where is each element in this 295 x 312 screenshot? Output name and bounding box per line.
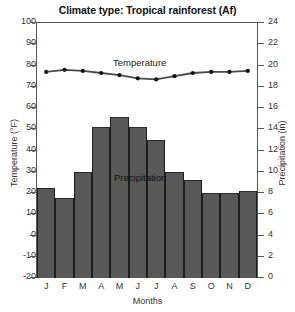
y-axis-right-tick-mark <box>258 128 264 129</box>
y-axis-right-tick-label: 4 <box>268 230 294 239</box>
y-axis-right-tick-mark <box>258 277 264 278</box>
x-axis-month-label: N <box>221 281 239 291</box>
precipitation-bar <box>202 193 220 278</box>
x-axis-month-label: S <box>184 281 202 291</box>
x-axis-month-label: J <box>129 281 147 291</box>
y-axis-left-tick-label: 80 <box>10 60 36 69</box>
y-axis-right-tick-label: 6 <box>268 208 294 217</box>
y-axis-right-tick-label: 24 <box>268 17 294 26</box>
precipitation-bar <box>147 140 165 278</box>
y-axis-right-tick-label: 12 <box>268 145 294 154</box>
y-axis-right-tick-label: 2 <box>268 251 294 260</box>
precipitation-bar <box>92 127 110 278</box>
x-axis-month-label: J <box>147 281 165 291</box>
y-axis-right-tick-label: 0 <box>268 272 294 281</box>
y-axis-left-ticks: 1009080706050403020100-10-20 <box>0 0 36 312</box>
precipitation-bar <box>129 127 147 278</box>
x-axis-month-label: F <box>56 281 74 291</box>
x-axis-month-label: D <box>239 281 257 291</box>
x-axis-month-label: J <box>37 281 55 291</box>
y-axis-right-tick-label: 22 <box>268 38 294 47</box>
precipitation-bar <box>165 172 183 278</box>
y-axis-right-tick-label: 8 <box>268 187 294 196</box>
y-axis-left-tick-label: 0 <box>10 230 36 239</box>
x-axis-month-label: A <box>92 281 110 291</box>
x-axis-title: Months <box>0 296 295 306</box>
y-axis-left-tick-label: 40 <box>10 145 36 154</box>
y-axis-right-tick-label: 10 <box>268 166 294 175</box>
y-axis-right-tick-mark <box>258 65 264 66</box>
x-axis-month-label: O <box>202 281 220 291</box>
y-axis-right-tick-mark <box>258 192 264 193</box>
y-axis-right-tick-mark <box>258 86 264 87</box>
precipitation-bar <box>239 191 257 278</box>
y-axis-right-tick-mark <box>258 107 264 108</box>
y-axis-right-tick-label: 16 <box>268 102 294 111</box>
climograph-chart: Climate type: Tropical rainforest (Af) T… <box>0 0 295 312</box>
precipitation-bar <box>55 198 73 278</box>
x-axis-month-label: M <box>111 281 129 291</box>
x-axis-month-label: A <box>166 281 184 291</box>
y-axis-right-tick-label: 20 <box>268 60 294 69</box>
y-axis-right-tick-mark <box>258 213 264 214</box>
y-axis-right-line <box>257 22 258 278</box>
y-axis-right-tick-mark <box>258 150 264 151</box>
precipitation-bar <box>220 193 238 278</box>
chart-title: Climate type: Tropical rainforest (Af) <box>0 4 295 16</box>
precipitation-series-label: Precipitation <box>114 172 166 183</box>
temperature-series-label: Temperature <box>113 57 166 68</box>
precipitation-bar <box>74 172 92 278</box>
y-axis-right-tick-label: 14 <box>268 123 294 132</box>
x-axis-month-label: M <box>74 281 92 291</box>
y-axis-right-tick-mark <box>258 171 264 172</box>
y-axis-right-tick-mark <box>258 22 264 23</box>
precipitation-bar <box>184 180 202 278</box>
y-axis-right-tick-mark <box>258 256 264 257</box>
y-axis-right-tick-mark <box>258 43 264 44</box>
y-axis-right-ticks: 242220181614121086420 <box>258 0 295 312</box>
precipitation-bar <box>110 117 128 279</box>
y-axis-right-tick-mark <box>258 235 264 236</box>
precipitation-bar <box>37 188 55 278</box>
y-axis-right-tick-label: 18 <box>268 81 294 90</box>
